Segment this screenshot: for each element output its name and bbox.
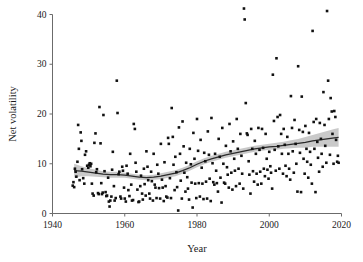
data-point — [166, 196, 169, 199]
data-point — [110, 195, 113, 198]
data-point — [205, 180, 208, 183]
data-point — [100, 182, 103, 185]
data-point — [320, 138, 323, 141]
scatter-plot-figure: 01020304019401960198020002020 Year Net v… — [0, 0, 363, 262]
data-point — [331, 133, 334, 136]
data-point — [312, 121, 315, 124]
data-point — [106, 194, 109, 197]
data-point — [269, 165, 272, 168]
data-point — [142, 198, 145, 201]
x-tick-label: 1940 — [43, 220, 62, 230]
data-point — [114, 197, 117, 200]
data-point — [296, 190, 299, 193]
data-point — [210, 117, 213, 120]
data-point — [153, 183, 156, 186]
data-point — [327, 79, 330, 82]
data-point — [305, 148, 308, 151]
data-point — [198, 182, 201, 185]
data-point — [283, 144, 286, 147]
data-point — [321, 165, 324, 168]
data-point — [143, 183, 146, 186]
data-point — [227, 186, 230, 189]
data-point — [293, 119, 296, 122]
data-point — [125, 164, 128, 167]
data-point — [179, 153, 182, 156]
data-point — [181, 120, 184, 123]
data-point — [263, 167, 266, 170]
data-point — [170, 197, 173, 200]
data-point — [82, 177, 85, 180]
data-point — [135, 170, 138, 173]
data-point — [335, 139, 338, 142]
data-point — [261, 128, 264, 131]
data-point — [127, 189, 130, 192]
data-point — [232, 140, 235, 143]
data-point — [212, 181, 215, 184]
data-point — [162, 200, 165, 203]
data-point — [257, 127, 260, 130]
data-point — [264, 175, 267, 178]
data-point — [243, 18, 246, 21]
data-point — [211, 162, 214, 165]
data-point — [181, 197, 184, 200]
data-point — [297, 65, 300, 68]
data-point — [141, 192, 144, 195]
data-point — [209, 200, 212, 203]
data-point — [161, 186, 164, 189]
y-tick-label: 10 — [37, 159, 47, 169]
data-point — [123, 197, 126, 200]
data-point — [213, 183, 216, 186]
data-point — [163, 161, 166, 164]
data-point — [196, 118, 199, 121]
data-point — [81, 168, 84, 171]
data-point — [284, 164, 287, 167]
data-point — [78, 148, 81, 151]
data-point — [320, 153, 323, 156]
plot-canvas: 01020304019401960198020002020 Year Net v… — [0, 0, 363, 262]
data-point — [237, 167, 240, 170]
data-point — [96, 168, 99, 171]
data-point — [229, 150, 232, 153]
data-point — [191, 206, 194, 209]
data-point — [275, 57, 278, 60]
data-point — [206, 197, 209, 200]
data-point — [243, 7, 246, 10]
data-point — [138, 200, 141, 203]
data-point — [326, 10, 329, 13]
data-point — [72, 181, 75, 184]
data-point — [132, 199, 135, 202]
data-point — [188, 148, 191, 151]
data-point — [116, 112, 119, 115]
data-point — [294, 143, 297, 146]
data-point — [179, 179, 182, 182]
data-point — [270, 171, 273, 174]
data-point — [168, 143, 171, 146]
data-point — [240, 154, 243, 157]
data-point — [157, 172, 160, 175]
data-point — [129, 153, 132, 156]
data-point — [309, 163, 312, 166]
data-point — [139, 185, 142, 188]
data-point — [311, 182, 314, 185]
x-tick-label: 1960 — [115, 220, 134, 230]
data-point — [337, 161, 340, 164]
data-point — [104, 191, 107, 194]
data-point — [277, 145, 280, 148]
data-point — [93, 142, 96, 145]
data-point — [334, 116, 337, 119]
data-point — [265, 157, 268, 160]
data-point — [76, 160, 79, 163]
data-point — [128, 195, 131, 198]
data-point — [253, 180, 256, 183]
data-point — [299, 152, 302, 155]
data-point — [233, 157, 236, 160]
data-point — [259, 170, 262, 173]
data-point — [177, 209, 180, 212]
data-point — [172, 136, 175, 139]
data-point — [199, 195, 202, 198]
data-point — [307, 176, 310, 179]
data-point — [295, 162, 298, 165]
data-point — [164, 185, 167, 188]
data-point — [235, 118, 238, 121]
data-point — [217, 190, 220, 193]
